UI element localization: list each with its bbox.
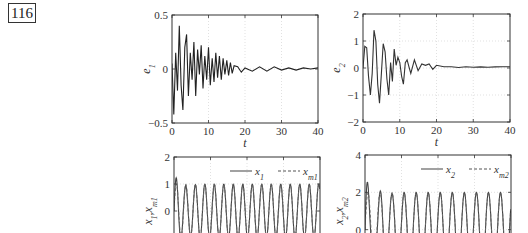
legend-label-xm1: xm1 bbox=[302, 165, 318, 182]
y-tick-label: 2 bbox=[354, 8, 360, 20]
y-tick-label: 1 bbox=[354, 35, 360, 47]
x-axis-label: t bbox=[243, 136, 247, 150]
x-tick-label: 0 bbox=[169, 125, 175, 137]
x-tick-label: 10 bbox=[203, 125, 215, 137]
y-tick-label: 0 bbox=[165, 205, 171, 217]
y-tick-label: −0.5 bbox=[148, 117, 168, 129]
y-tick-label: 4 bbox=[356, 149, 362, 161]
legend-label-xm2: xm2 bbox=[493, 163, 509, 180]
x-tick-label: 40 bbox=[505, 124, 517, 136]
x-tick-label: 0 bbox=[360, 124, 366, 136]
y-axis-label: x2,xm2 bbox=[332, 197, 350, 225]
plot-e1: 010203040−0.500.5te1 bbox=[139, 9, 324, 150]
y-axis-label: e2 bbox=[329, 63, 347, 72]
y-tick-label: 0 bbox=[163, 63, 169, 75]
x-tick-label: 10 bbox=[394, 124, 406, 136]
x-tick-label: 40 bbox=[313, 125, 325, 137]
x-axis-label: t bbox=[435, 135, 439, 149]
y-tick-label: 0 bbox=[356, 224, 362, 233]
y-tick-label: 2 bbox=[356, 186, 362, 198]
figure-canvas: 010203040−0.500.5te1 010203040−2−1012te2… bbox=[0, 0, 528, 233]
y-tick-label: 0.5 bbox=[154, 9, 168, 21]
x-tick-label: 30 bbox=[468, 124, 480, 136]
y-tick-label: 0 bbox=[354, 62, 360, 74]
legend-label-x2: x2 bbox=[445, 163, 455, 180]
plot-x1-xm1: 012x1,xm1x1xm1 bbox=[141, 151, 320, 233]
plot-e2: 010203040−2−1012te2 bbox=[329, 8, 516, 149]
series-group bbox=[365, 182, 511, 233]
x-tick-label: 30 bbox=[276, 125, 288, 137]
y-tick-label: −1 bbox=[347, 89, 359, 101]
y-tick-label: −2 bbox=[347, 116, 359, 128]
y-axis-label: e1 bbox=[139, 64, 157, 73]
plot-x2-xm2: 024x2,xm2x2xm2 bbox=[332, 149, 511, 233]
legend-label-x1: x1 bbox=[254, 165, 264, 182]
y-axis-label: x1,xm1 bbox=[141, 197, 159, 225]
y-tick-label: 2 bbox=[165, 151, 171, 163]
y-tick-label: 1 bbox=[165, 178, 171, 190]
